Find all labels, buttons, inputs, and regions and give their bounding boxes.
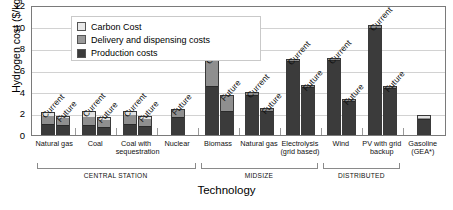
legend-item-delivery: Delivery and dispensing costs — [77, 33, 255, 46]
bar-segment-production — [418, 119, 430, 135]
category-separator — [239, 128, 240, 135]
bar-segment-production — [287, 61, 299, 135]
section-bracket-tick — [323, 163, 324, 169]
bar — [286, 59, 300, 135]
bar-segment-production — [98, 127, 110, 135]
section-bracket-tick — [195, 163, 196, 169]
category-separator — [198, 128, 199, 135]
bar-segment-production — [57, 125, 69, 135]
y-axis-tick-label: 6 — [0, 66, 25, 75]
x-axis-section-label: MIDSIZE — [198, 172, 321, 179]
x-axis-category-label: Gasoline(GEA*) — [402, 140, 443, 157]
section-bracket — [323, 168, 399, 169]
category-separator — [116, 128, 117, 135]
legend-swatch-production-icon — [77, 49, 86, 58]
x-axis-section-label: CENTRAL STATION — [34, 172, 198, 179]
legend-item-production: Production costs — [77, 47, 255, 60]
category-separator — [403, 128, 404, 135]
x-axis-category-label: Coal — [75, 140, 116, 148]
section-bracket-tick — [37, 163, 38, 169]
x-axis-category-label: Natural gas — [34, 140, 75, 148]
x-axis-category-label: Electrolysis(grid based) — [279, 140, 320, 157]
bar-segment-production — [83, 125, 95, 135]
x-axis-section-label: DISTRIBUTED — [320, 172, 402, 179]
bar — [368, 25, 382, 135]
bar-segment-production — [328, 60, 340, 135]
bar-segment-production — [42, 124, 54, 135]
x-axis-title: Technology — [0, 184, 453, 196]
category-separator — [280, 128, 281, 135]
plot-area: CurrentFutureCurrentFutureCurrentFutureF… — [31, 6, 446, 136]
y-axis-tick-label: 12 — [0, 1, 25, 10]
section-bracket-tick — [399, 163, 400, 169]
legend-item-carbon: Carbon Cost — [77, 20, 255, 33]
bar-segment-production — [384, 88, 396, 135]
bar-segment-production — [246, 95, 258, 135]
legend-swatch-carbon-icon — [77, 22, 86, 31]
category-separator — [75, 128, 76, 135]
category-separator — [321, 128, 322, 135]
category-separator — [362, 128, 363, 135]
legend-label-carbon: Carbon Cost — [91, 22, 142, 32]
bar-segment-production — [221, 111, 233, 135]
category-separator — [157, 128, 158, 135]
section-bracket — [201, 168, 318, 169]
x-axis-category-label: PV with gridbackup — [361, 140, 402, 157]
legend: Carbon Cost Delivery and dispensing cost… — [71, 16, 261, 61]
bar-segment-production — [302, 87, 314, 135]
y-axis-tick-label: 8 — [0, 44, 25, 53]
x-axis-category-label: Wind — [320, 140, 361, 148]
bar-segment-production — [139, 126, 151, 135]
legend-label-production: Production costs — [91, 48, 158, 58]
chart-figure: Hydrogen cost ($/kg) 024681012 CurrentFu… — [0, 0, 453, 210]
bar-segment-production — [369, 28, 381, 135]
x-axis-category-label: Natural gas — [239, 140, 280, 148]
section-bracket — [37, 168, 195, 169]
legend-label-delivery: Delivery and dispensing costs — [91, 35, 210, 45]
section-bracket-tick — [201, 163, 202, 169]
bar — [205, 58, 219, 135]
legend-swatch-delivery-icon — [77, 35, 86, 44]
bar-segment-production — [124, 124, 136, 135]
bar-segment-production — [206, 86, 218, 135]
x-axis-category-label: Nuclear — [157, 140, 198, 148]
x-axis-category-label: Biomass — [198, 140, 239, 148]
gridline — [32, 72, 445, 73]
x-axis-category-label: Coal withsequestration — [116, 140, 157, 157]
bar — [327, 58, 341, 135]
y-axis-tick-label: 0 — [0, 131, 25, 140]
y-axis-tick-label: 4 — [0, 88, 25, 97]
bar-segment-production — [172, 117, 184, 135]
bar — [417, 115, 431, 135]
y-axis-tick-label: 2 — [0, 109, 25, 118]
y-axis-tick-label: 10 — [0, 23, 25, 32]
section-bracket-tick — [317, 163, 318, 169]
